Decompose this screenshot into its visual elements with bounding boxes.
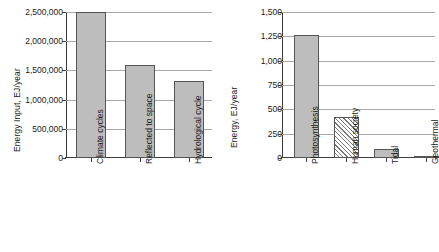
y-axis-tick-label: 0 <box>3 153 63 163</box>
chart-panel-left: Energy Input, EJ/year 0500,0001,000,0001… <box>0 0 215 252</box>
x-axis-tick-mark <box>91 158 92 162</box>
x-axis-category-label: Climate cycles <box>95 109 105 164</box>
y-axis-tick-label: 2,500,000 <box>3 7 63 17</box>
y-axis-tick-mark <box>62 129 66 130</box>
y-axis-tick-mark <box>278 109 282 110</box>
y-axis-tick-mark <box>62 70 66 71</box>
x-axis-category-label: Hydrological cycle <box>193 96 203 165</box>
y-axis-tick-label: 1,000 <box>236 56 282 66</box>
plot-area-left <box>66 12 212 158</box>
y-axis-tick-mark <box>278 36 282 37</box>
y-axis-tick-label: 1,250 <box>236 31 282 41</box>
x-axis-category-label: Geothermal <box>430 120 439 164</box>
chart-panel-right: Energy, EJ/year 02505007501,0001,2501,50… <box>215 0 439 252</box>
x-axis-tick-mark <box>140 158 141 162</box>
y-axis-title-right: Energy, EJ/year <box>229 87 239 148</box>
y-axis-tick-label: 750 <box>236 80 282 90</box>
y-axis-tick-label: 500,000 <box>3 124 63 134</box>
y-axis-tick-mark <box>278 61 282 62</box>
y-axis-tick-label: 1,000,000 <box>3 95 63 105</box>
y-axis-tick-mark <box>62 158 66 159</box>
gridline <box>282 12 435 13</box>
x-axis-tick-mark <box>189 158 190 162</box>
x-axis-category-label: Tidal <box>390 146 400 164</box>
y-axis-tick-label: 500 <box>236 104 282 114</box>
y-axis-tick-mark <box>278 12 282 13</box>
y-axis-tick-mark <box>278 134 282 135</box>
y-axis-tick-label: 1,500,000 <box>3 65 63 75</box>
y-axis-tick-mark <box>278 85 282 86</box>
x-axis-category-label: Human society <box>350 108 360 164</box>
x-axis-tick-mark <box>306 158 307 162</box>
y-axis-line-left <box>66 12 67 158</box>
energy-bar-chart-figure: Energy Input, EJ/year 0500,0001,000,0001… <box>0 0 439 252</box>
y-axis-title-left: Energy Input, EJ/year <box>12 68 22 152</box>
x-axis-category-label: Reflected to space <box>144 94 154 164</box>
y-axis-tick-mark <box>62 41 66 42</box>
x-axis-category-label: Photosynthesis <box>310 106 320 164</box>
y-axis-tick-label: 2,000,000 <box>3 36 63 46</box>
y-axis-tick-label: 0 <box>236 153 282 163</box>
x-axis-tick-mark <box>386 158 387 162</box>
y-axis-tick-mark <box>278 158 282 159</box>
y-axis-tick-mark <box>62 12 66 13</box>
x-axis-tick-mark <box>346 158 347 162</box>
y-axis-tick-label: 250 <box>236 129 282 139</box>
y-axis-tick-mark <box>62 100 66 101</box>
y-axis-tick-label: 1,500 <box>236 7 282 17</box>
x-axis-tick-mark <box>426 158 427 162</box>
